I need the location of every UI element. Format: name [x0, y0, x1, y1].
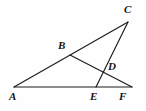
- vertex-label-B: B: [58, 40, 65, 51]
- vertex-label-A: A: [9, 91, 16, 102]
- vertex-label-D: D: [108, 61, 116, 72]
- vertex-label-E: E: [90, 91, 97, 102]
- vertex-label-C: C: [124, 4, 131, 15]
- segment-AC: [14, 22, 128, 87]
- geometry-figure: C B D A E F: [0, 0, 146, 111]
- segment-BF: [70, 55, 132, 87]
- vertex-label-F: F: [119, 91, 126, 102]
